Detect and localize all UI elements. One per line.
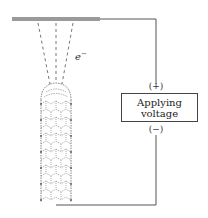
carbon-nanotube-icon <box>40 83 72 202</box>
electron-beams <box>38 23 73 84</box>
voltage-label-line1: Applying <box>122 97 197 108</box>
electron-charge: − <box>81 50 87 58</box>
voltage-label-line2: voltage <box>122 108 197 119</box>
voltage-source-label: Applying voltage <box>122 97 197 119</box>
positive-terminal-label: (+) <box>148 82 164 91</box>
wire-positive <box>100 19 156 84</box>
electron-label: e− <box>75 51 87 62</box>
voltage-source-box: Applying voltage <box>121 93 198 122</box>
anode-plate <box>12 17 100 21</box>
negative-terminal-label: (−) <box>148 125 164 134</box>
